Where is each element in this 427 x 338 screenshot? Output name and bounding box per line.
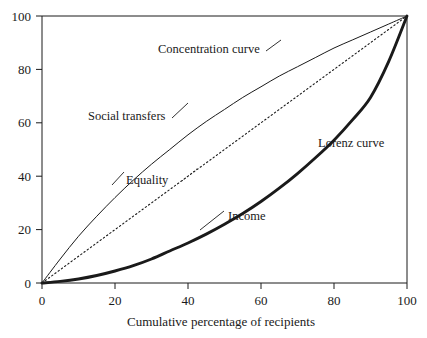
annotation-leader-lines: [112, 40, 281, 230]
x-tick-label-80: 80: [328, 293, 341, 308]
annotation-concentration-curve: Concentration curve: [158, 42, 260, 56]
lorenz-concentration-curve-figure: 0 20 40 60 80 100 0 20 40 60 80 100 Conc…: [0, 0, 427, 338]
chart-canvas: 0 20 40 60 80 100 0 20 40 60 80 100 Conc…: [0, 0, 427, 338]
y-axis-ticks: [36, 16, 42, 283]
x-tick-label-60: 60: [255, 293, 268, 308]
x-tick-labels: 0 20 40 60 80 100: [39, 293, 417, 308]
x-axis-title: Cumulative percentage of recipients: [127, 314, 315, 329]
x-tick-label-100: 100: [397, 293, 417, 308]
annotation-social-transfers: Social transfers: [88, 109, 166, 123]
x-tick-label-20: 20: [109, 293, 122, 308]
y-tick-label-60: 60: [18, 115, 31, 130]
y-tick-label-80: 80: [18, 62, 31, 77]
x-tick-label-0: 0: [39, 293, 46, 308]
annotation-income: Income: [228, 209, 266, 223]
x-axis-ticks: [42, 283, 407, 289]
y-tick-label-20: 20: [18, 222, 31, 237]
leader-concentration: [266, 40, 281, 51]
y-tick-labels: 0 20 40 60 80 100: [12, 9, 32, 291]
leader-equality-left: [112, 172, 124, 185]
annotation-lorenz-curve: Lorenz curve: [318, 136, 385, 150]
y-tick-label-40: 40: [18, 169, 31, 184]
y-tick-label-0: 0: [25, 276, 32, 291]
annotation-equality: Equality: [126, 173, 169, 187]
x-tick-label-40: 40: [182, 293, 195, 308]
leader-social-transfers: [172, 103, 188, 118]
y-tick-label-100: 100: [12, 9, 32, 24]
